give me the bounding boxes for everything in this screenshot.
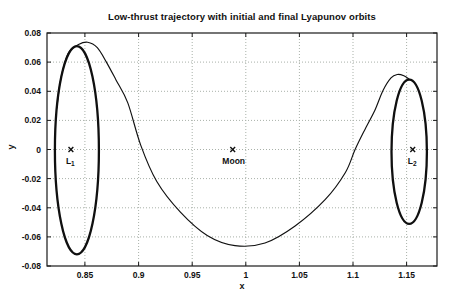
y-tick-label: -0.06 <box>22 232 42 242</box>
y-tick-label: -0.04 <box>22 203 42 213</box>
y-tick-label: -0.08 <box>22 261 42 271</box>
x-axis-label: x <box>47 281 437 291</box>
y-tick-label: -0.02 <box>22 174 42 184</box>
y-tick-label: 0 <box>36 145 41 155</box>
plot-title: Low-thrust trajectory with initial and f… <box>47 11 437 22</box>
l2-lyapunov-orbit-curve <box>392 80 427 224</box>
y-tick-label: 0.06 <box>24 57 41 67</box>
y-tick-label: 0.02 <box>24 115 41 125</box>
l1-marker-label: L1 <box>66 156 75 168</box>
y-tick-label: 0.08 <box>24 28 41 38</box>
moon-marker-label: Moon <box>222 156 245 166</box>
x-tick-label: 1.05 <box>291 270 308 280</box>
plot-area: 0.850.90.9511.051.11.15-0.08-0.06-0.04-0… <box>0 0 452 305</box>
x-tick-label: 0.85 <box>77 270 94 280</box>
x-tick-label: 0.95 <box>184 270 201 280</box>
figure: 0.850.90.9511.051.11.15-0.08-0.06-0.04-0… <box>0 0 452 305</box>
y-tick-label: 0.04 <box>24 86 41 96</box>
low-thrust-transfer-trajectory-curve <box>57 42 409 246</box>
x-tick-label: 0.9 <box>133 270 145 280</box>
x-tick-label: 1 <box>243 270 248 280</box>
y-axis-label: y <box>6 138 16 156</box>
l2-marker-label: L2 <box>408 156 417 168</box>
x-tick-label: 1.15 <box>398 270 415 280</box>
x-tick-label: 1.1 <box>347 270 359 280</box>
